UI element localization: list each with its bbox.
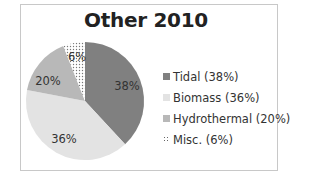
legend-label-biomass: Biomass (36%) — [173, 91, 260, 105]
chart-legend: Tidal (38%) Biomass (36%) Hydrothermal (… — [163, 66, 290, 150]
legend-label-misc: Misc. (6%) — [173, 133, 233, 147]
legend-label-tidal: Tidal (38%) — [173, 70, 239, 84]
legend-item-tidal: Tidal (38%) — [163, 66, 290, 87]
legend-swatch-hydrothermal — [163, 115, 170, 122]
label-misc: 6% — [68, 50, 86, 64]
label-biomass: 36% — [51, 132, 77, 146]
legend-item-biomass: Biomass (36%) — [163, 87, 290, 108]
legend-swatch-biomass — [163, 94, 170, 101]
legend-swatch-misc — [163, 136, 170, 143]
legend-item-hydrothermal: Hydrothermal (20%) — [163, 108, 290, 129]
label-hydrothermal: 20% — [35, 74, 61, 88]
legend-label-hydrothermal: Hydrothermal (20%) — [173, 112, 290, 126]
legend-item-misc: Misc. (6%) — [163, 129, 290, 150]
legend-swatch-tidal — [163, 73, 170, 80]
label-tidal: 38% — [114, 79, 140, 93]
